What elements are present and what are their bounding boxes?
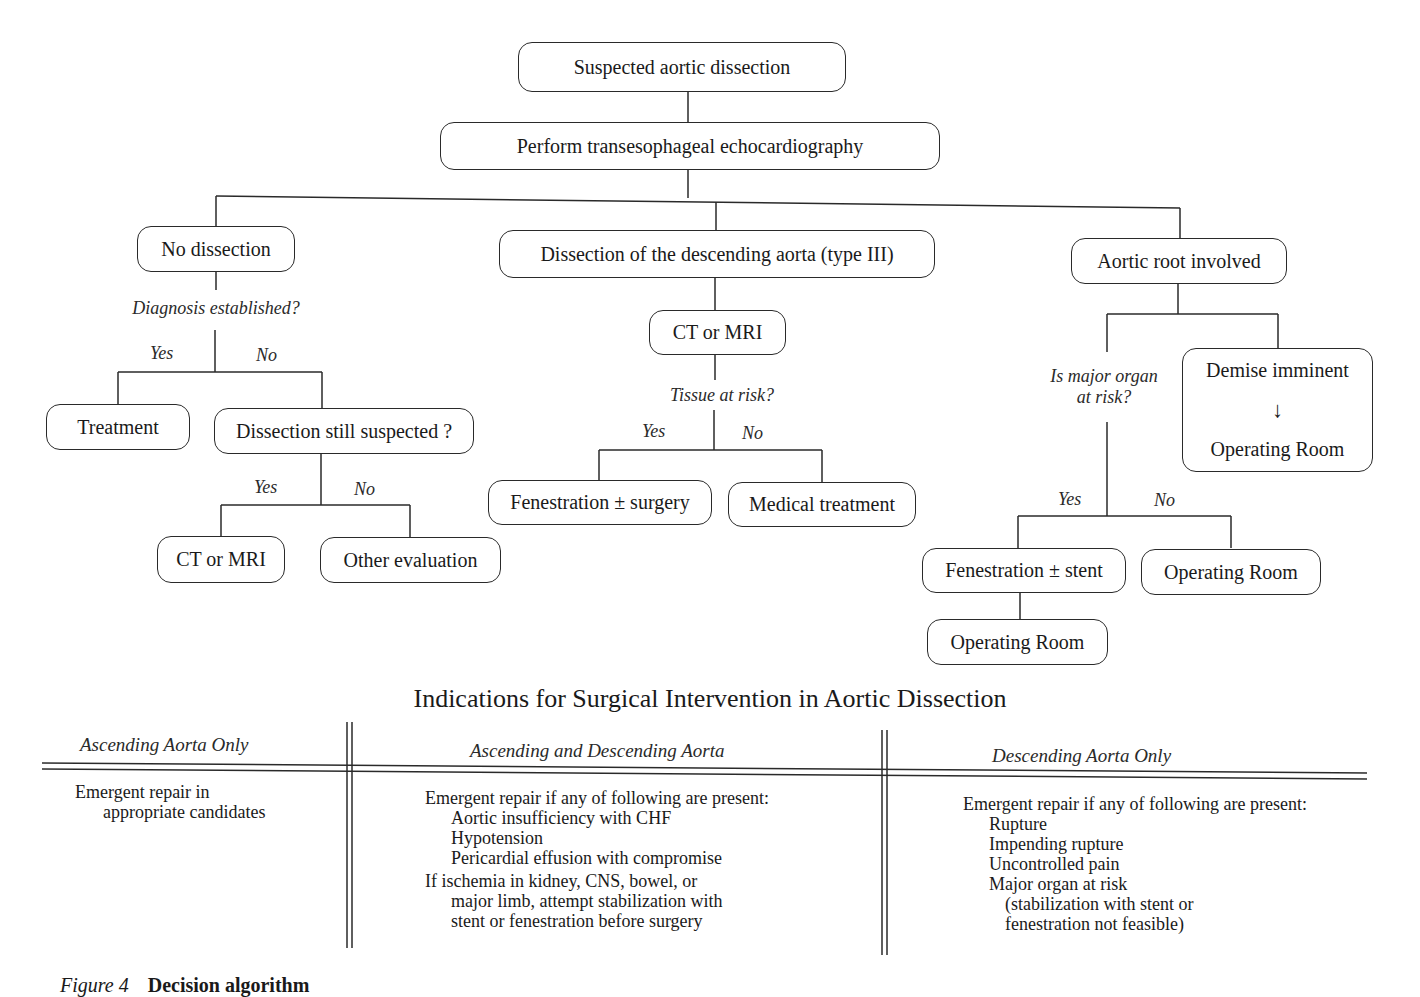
cell-line: appropriate candidates xyxy=(75,802,265,822)
cell-line: Emergent repair if any of following are … xyxy=(963,794,1307,814)
connector xyxy=(216,196,1180,208)
node-aortic-root-involved: Aortic root involved xyxy=(1071,238,1287,284)
cell-line: Pericardial effusion with compromise xyxy=(425,848,769,868)
node-fenestration-surgery: Fenestration ± surgery xyxy=(488,480,712,525)
cell-line: Aortic insufficiency with CHF xyxy=(425,808,769,828)
figure-caption: Figure 4 Decision algorithm xyxy=(60,974,309,997)
node-label: Treatment xyxy=(77,416,158,439)
node-suspected-dissection: Suspected aortic dissection xyxy=(518,42,846,92)
cell-line: stent or fenestration before surgery xyxy=(425,911,769,931)
table-cell-descending-only: Emergent repair if any of following are … xyxy=(963,794,1307,934)
table-title: Indications for Surgical Intervention in… xyxy=(0,684,1420,714)
node-treatment: Treatment xyxy=(46,404,190,450)
yes-label: Yes xyxy=(1058,489,1081,510)
node-demise-imminent: Demise imminent ↓ Operating Room xyxy=(1182,348,1373,472)
question-tissue-at-risk: Tissue at risk? xyxy=(622,385,822,406)
cell-line: Uncontrolled pain xyxy=(963,854,1307,874)
node-label: Medical treatment xyxy=(749,493,895,516)
node-fenestration-stent: Fenestration ± stent xyxy=(922,548,1126,593)
cell-line: major limb, attempt stabilization with xyxy=(425,891,769,911)
question-diagnosis-established: Diagnosis established? xyxy=(116,298,316,319)
table-cell-ascending-only: Emergent repair in appropriate candidate… xyxy=(75,782,265,822)
table-header-rule xyxy=(42,769,1367,779)
figure-label: Figure 4 xyxy=(60,974,129,996)
cell-line: Emergent repair in xyxy=(75,782,265,802)
node-label: Suspected aortic dissection xyxy=(574,56,791,79)
node-operating-room: Operating Room xyxy=(927,619,1108,665)
table-header-ascending-descending: Ascending and Descending Aorta xyxy=(470,740,725,762)
node-label: Fenestration ± stent xyxy=(945,559,1103,582)
node-label: Operating Room xyxy=(951,631,1085,654)
node-medical-treatment: Medical treatment xyxy=(728,482,916,527)
node-operating-room: Operating Room xyxy=(1141,549,1321,595)
yes-label: Yes xyxy=(254,477,277,498)
no-label: No xyxy=(1154,490,1175,511)
node-label: Operating Room xyxy=(1211,438,1345,461)
node-no-dissection: No dissection xyxy=(137,226,295,272)
cell-line: (stabilization with stent or xyxy=(963,894,1307,914)
node-label: Dissection of the descending aorta (type… xyxy=(540,243,893,266)
node-label: Other evaluation xyxy=(344,549,478,572)
no-label: No xyxy=(256,345,277,366)
node-ct-or-mri: CT or MRI xyxy=(649,310,786,355)
question-major-organ-at-risk: Is major organ at risk? xyxy=(1034,366,1174,408)
cell-line: Emergent repair if any of following are … xyxy=(425,788,769,808)
table-cell-ascending-descending: Emergent repair if any of following are … xyxy=(425,788,769,931)
yes-label: Yes xyxy=(642,421,665,442)
cell-line: Major organ at risk xyxy=(963,874,1307,894)
yes-label: Yes xyxy=(150,343,173,364)
node-label: Dissection still suspected ? xyxy=(236,420,452,443)
caption-text: Decision algorithm xyxy=(148,974,310,996)
node-label: No dissection xyxy=(161,238,270,261)
cell-line: If ischemia in kidney, CNS, bowel, or xyxy=(425,871,769,891)
node-label: Operating Room xyxy=(1164,561,1298,584)
node-label: CT or MRI xyxy=(176,548,266,571)
cell-line: Impending rupture xyxy=(963,834,1307,854)
node-label: Demise imminent xyxy=(1206,359,1349,382)
no-label: No xyxy=(742,423,763,444)
table-header-descending-only: Descending Aorta Only xyxy=(992,745,1171,767)
node-label: CT or MRI xyxy=(673,321,763,344)
node-label: Perform transesophageal echocardiography xyxy=(517,135,864,158)
cell-line: Rupture xyxy=(963,814,1307,834)
cell-line: fenestration not feasible) xyxy=(963,914,1307,934)
arrow-down-icon: ↓ xyxy=(1272,401,1283,419)
table-header-ascending-only: Ascending Aorta Only xyxy=(80,734,249,756)
no-label: No xyxy=(354,479,375,500)
question-line: Is major organ xyxy=(1034,366,1174,387)
question-line: at risk? xyxy=(1034,387,1174,408)
node-ct-or-mri: CT or MRI xyxy=(157,536,285,583)
cell-line: Hypotension xyxy=(425,828,769,848)
node-perform-tee: Perform transesophageal echocardiography xyxy=(440,122,940,170)
node-label: Aortic root involved xyxy=(1097,250,1260,273)
node-dissection-still-suspected: Dissection still suspected ? xyxy=(214,408,474,454)
node-descending-dissection: Dissection of the descending aorta (type… xyxy=(499,230,935,278)
node-other-evaluation: Other evaluation xyxy=(320,537,501,583)
node-label: Fenestration ± surgery xyxy=(510,491,689,514)
